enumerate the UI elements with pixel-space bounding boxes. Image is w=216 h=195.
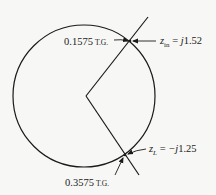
load-tg-label: 0.3575T.G. [65, 177, 109, 188]
input-impedance-label: zin = j1.52 [159, 35, 202, 49]
load-point [124, 154, 127, 157]
load-impedance-label: zL = −j1.25 [148, 143, 197, 157]
smith-chart-diagram: 0.1575T.G. zin = j1.52 zL = −j1.25 0.357… [0, 0, 216, 195]
upper-radial-line [86, 17, 148, 96]
load-tg-arrow [115, 158, 123, 175]
lower-radial-line [86, 96, 139, 175]
input-point [129, 40, 132, 43]
input-tg-label: 0.1575T.G. [64, 36, 108, 47]
input-tg-arrow [114, 40, 128, 41]
